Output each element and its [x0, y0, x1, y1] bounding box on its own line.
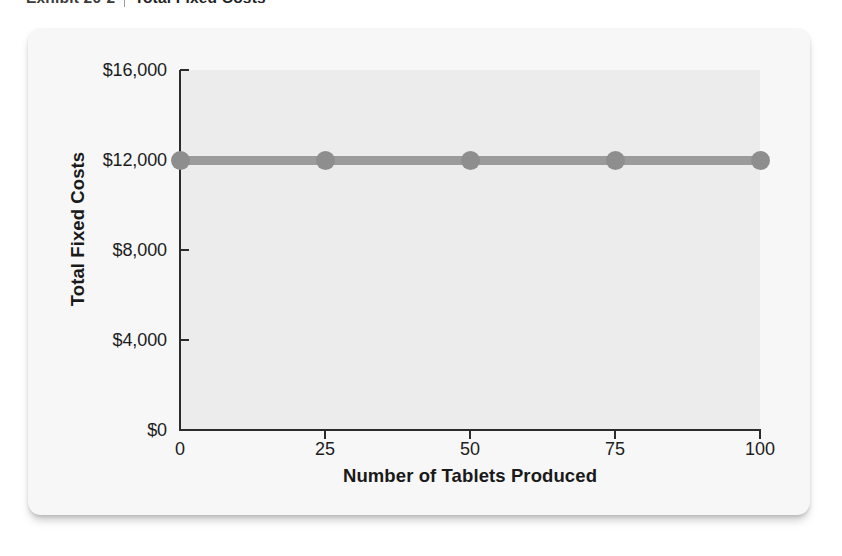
y-tick-mark: [180, 339, 189, 341]
plot-area: [180, 70, 760, 430]
y-axis-title: Total Fixed Costs: [67, 119, 89, 339]
x-tick-mark: [469, 430, 471, 439]
series-point: [316, 151, 335, 170]
series-point: [461, 151, 480, 170]
x-tick-label: 25: [315, 439, 335, 460]
x-tick-mark: [324, 430, 326, 439]
exhibit-name: Total Fixed Costs: [134, 0, 265, 7]
y-tick-label: $8,000: [113, 240, 167, 261]
x-tick-label: 0: [175, 439, 185, 460]
x-axis-title: Number of Tablets Produced: [180, 465, 760, 487]
exhibit-number: Exhibit 20-2: [26, 0, 115, 7]
x-tick-mark: [614, 430, 616, 439]
y-tick-mark: [180, 69, 189, 71]
y-tick-label: $0: [147, 420, 167, 441]
y-tick-label: $12,000: [103, 150, 167, 171]
y-tick-label: $16,000: [103, 60, 167, 81]
series-point: [606, 151, 625, 170]
x-tick-label: 50: [460, 439, 480, 460]
exhibit-title: Exhibit 20-2 Total Fixed Costs: [26, 0, 266, 10]
y-tick-mark: [180, 429, 189, 431]
y-tick-label: $4,000: [113, 330, 167, 351]
series-point: [751, 151, 770, 170]
series-point: [171, 151, 190, 170]
plot-wrap: $0$4,000$8,000$12,000$16,000 0255075100: [180, 70, 760, 430]
x-tick-label: 75: [605, 439, 625, 460]
chart-card: $0$4,000$8,000$12,000$16,000 0255075100 …: [28, 28, 810, 515]
y-tick-mark: [180, 249, 189, 251]
x-tick-label: 100: [745, 439, 775, 460]
title-divider: [124, 0, 125, 7]
x-tick-mark: [759, 430, 761, 439]
